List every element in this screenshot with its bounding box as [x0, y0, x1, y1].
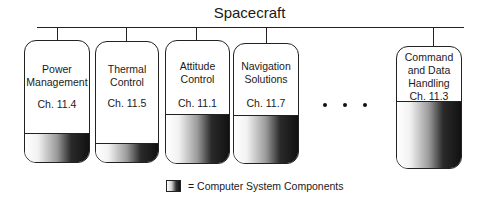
- subsystem-name: Thermal Control: [96, 63, 158, 89]
- dot: [363, 103, 367, 107]
- dot: [323, 103, 327, 107]
- subsystem-name: Navigation Solutions: [234, 60, 298, 86]
- connector-power: [57, 28, 58, 40]
- connector-attitude: [196, 28, 197, 40]
- gradient-swatch-icon: [166, 180, 181, 192]
- spacecraft-title: Spacecraft: [0, 4, 487, 21]
- connector-navigation: [266, 28, 267, 43]
- name-line-2: and Data: [397, 64, 461, 77]
- name-line-2: Solutions: [234, 73, 298, 86]
- computer-component-block: [96, 143, 158, 162]
- chapter-ref: Ch. 11.1: [166, 97, 229, 110]
- name-line-1: Attitude: [166, 60, 229, 73]
- subsystem-name: Command and Data Handling: [397, 51, 461, 90]
- legend-text: = Computer System Components: [188, 179, 344, 193]
- computer-component-block: [397, 101, 461, 168]
- name-line-1: Power: [25, 63, 89, 76]
- name-line-1: Command: [397, 51, 461, 64]
- subsystem-thermal-control: Thermal Control Ch. 11.5: [95, 41, 159, 163]
- chapter-ref: Ch. 11.5: [96, 97, 158, 110]
- name-line-2: Control: [166, 73, 229, 86]
- chapter-ref: Ch. 11.4: [25, 98, 89, 111]
- subsystem-power-management: Power Management Ch. 11.4: [24, 40, 90, 163]
- bus-line: [37, 27, 464, 28]
- computer-component-block: [166, 114, 229, 163]
- name-line-1: Navigation: [234, 60, 298, 73]
- name-line-1: Thermal: [96, 63, 158, 76]
- subsystem-command-data-handling: Command and Data Handling Ch. 11.3: [396, 46, 462, 169]
- name-line-2: Management: [25, 76, 89, 89]
- subsystem-name: Power Management: [25, 63, 89, 89]
- subsystem-name: Attitude Control: [166, 60, 229, 86]
- connector-command: [433, 28, 434, 46]
- chapter-ref: Ch. 11.7: [234, 97, 298, 110]
- subsystem-navigation-solutions: Navigation Solutions Ch. 11.7: [233, 43, 299, 164]
- connector-thermal: [126, 28, 127, 41]
- dot: [343, 103, 347, 107]
- name-line-2: Control: [96, 76, 158, 89]
- computer-component-block: [25, 133, 89, 162]
- subsystem-attitude-control: Attitude Control Ch. 11.1: [165, 40, 230, 164]
- computer-component-block: [234, 115, 298, 163]
- name-line-3: Handling: [397, 77, 461, 90]
- ellipsis: [318, 101, 378, 109]
